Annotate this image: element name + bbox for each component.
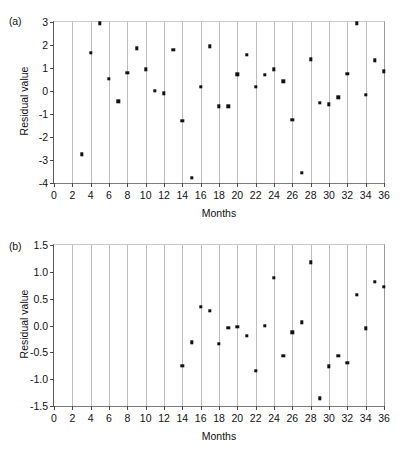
- y-axis-tick: [50, 22, 54, 23]
- data-point: [309, 58, 312, 61]
- data-point: [281, 354, 284, 357]
- y-axis-tick-label: 0.5: [33, 293, 48, 304]
- data-point: [291, 331, 294, 334]
- x-axis-tick: [329, 183, 330, 187]
- y-axis-tick: [50, 137, 54, 138]
- data-point: [272, 67, 275, 70]
- x-axis-tick-label: 34: [360, 413, 372, 424]
- x-axis-tick: [292, 183, 293, 187]
- x-axis-tick: [292, 406, 293, 410]
- x-axis-tick-label: 10: [140, 413, 152, 424]
- x-axis-tick-label: 4: [88, 190, 94, 201]
- x-axis-tick: [347, 406, 348, 410]
- gridline-vertical: [292, 245, 293, 406]
- x-axis-tick-label: 30: [323, 190, 335, 201]
- data-point: [245, 53, 248, 56]
- x-axis-tick-label: 14: [176, 190, 188, 201]
- data-point: [153, 89, 156, 92]
- data-point: [346, 72, 349, 75]
- y-axis-tick: [50, 91, 54, 92]
- data-point: [171, 48, 174, 51]
- x-axis-tick-label: 10: [140, 190, 152, 201]
- y-axis-tick: [50, 114, 54, 115]
- x-axis-tick-label: 0: [51, 190, 57, 201]
- x-axis-tick: [256, 183, 257, 187]
- data-point: [89, 51, 92, 54]
- data-point: [263, 73, 266, 76]
- gridline-vertical: [146, 22, 147, 183]
- y-axis-tick-label: -1.5: [30, 401, 48, 412]
- x-axis-tick-label: 0: [51, 413, 57, 424]
- gridline-vertical: [146, 245, 147, 406]
- x-axis-tick-label: 26: [286, 413, 298, 424]
- x-axis-tick: [164, 406, 165, 410]
- gridline-vertical: [72, 22, 73, 183]
- data-point: [226, 105, 229, 108]
- data-point: [217, 105, 220, 108]
- x-axis-tick: [72, 406, 73, 410]
- gridline-vertical: [164, 245, 165, 406]
- gridline-vertical: [201, 245, 202, 406]
- data-point: [272, 276, 275, 279]
- x-axis-tick: [146, 406, 147, 410]
- x-axis-tick: [311, 183, 312, 187]
- x-axis-tick-label: 32: [341, 413, 353, 424]
- data-point: [126, 71, 129, 74]
- gridline-vertical: [347, 22, 348, 183]
- data-point: [226, 326, 229, 329]
- gridline-vertical: [274, 245, 275, 406]
- x-axis-tick-label: 16: [195, 413, 207, 424]
- x-axis-tick-label: 22: [250, 190, 262, 201]
- x-axis-tick-label: 18: [213, 413, 225, 424]
- x-axis-tick: [274, 183, 275, 187]
- y-axis-tick-label: 3: [42, 17, 48, 28]
- gridline-vertical: [109, 245, 110, 406]
- gridline-vertical: [164, 22, 165, 183]
- x-axis-tick-label: 18: [213, 190, 225, 201]
- y-axis-tick: [50, 245, 54, 246]
- data-point: [135, 47, 138, 50]
- x-axis-tick-label: 8: [124, 190, 130, 201]
- data-point: [208, 309, 211, 312]
- data-point: [318, 397, 321, 400]
- data-point: [336, 354, 339, 357]
- gridline-vertical: [219, 245, 220, 406]
- data-point: [263, 324, 266, 327]
- gridline-vertical: [237, 22, 238, 183]
- data-point: [355, 21, 358, 24]
- gridline-vertical: [329, 245, 330, 406]
- x-axis-tick: [109, 406, 110, 410]
- x-axis-tick: [91, 406, 92, 410]
- x-axis-title-b: Months: [54, 430, 384, 442]
- x-axis-tick: [311, 406, 312, 410]
- x-axis-tick: [329, 406, 330, 410]
- data-point: [254, 369, 257, 372]
- x-axis-tick-label: 26: [286, 190, 298, 201]
- x-axis-tick-label: 22: [250, 413, 262, 424]
- x-axis-tick: [237, 183, 238, 187]
- gridline-vertical: [182, 22, 183, 183]
- y-axis-tick-label: 2: [42, 40, 48, 51]
- data-point: [254, 85, 257, 88]
- gridline-vertical: [219, 22, 220, 183]
- data-point: [98, 21, 101, 24]
- data-point: [181, 364, 184, 367]
- x-axis-tick: [146, 183, 147, 187]
- x-axis-tick-label: 24: [268, 190, 280, 201]
- x-axis-tick: [91, 183, 92, 187]
- x-axis-tick: [219, 183, 220, 187]
- gridline-vertical: [109, 22, 110, 183]
- plot-area-b: Residual value Months 1.51.00.50.0-0.5-1…: [53, 244, 385, 407]
- data-point: [336, 96, 339, 99]
- gridline-vertical: [311, 245, 312, 406]
- x-axis-tick: [72, 183, 73, 187]
- data-point: [199, 85, 202, 88]
- x-axis-tick: [366, 406, 367, 410]
- panel-b: (b) Residual value Months 1.51.00.50.0-0…: [0, 226, 406, 452]
- x-axis-tick-label: 32: [341, 190, 353, 201]
- data-point: [373, 59, 376, 62]
- x-axis-title-a: Months: [54, 207, 384, 219]
- x-axis-tick: [182, 406, 183, 410]
- gridline-vertical: [127, 245, 128, 406]
- x-axis-tick-label: 24: [268, 413, 280, 424]
